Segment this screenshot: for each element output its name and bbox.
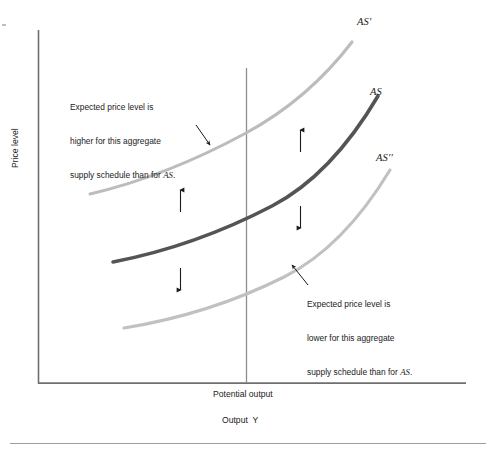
annotation-upper-line-1: Expected price level is (70, 102, 175, 113)
annotation-lower-italic-as: AS (400, 367, 410, 377)
annotation-upper-line-3: supply schedule than for AS. (70, 170, 175, 181)
diagram-canvas (0, 0, 496, 455)
annotation-lower-line-3-text: supply schedule than for (307, 367, 400, 377)
annotation-lower-line-1: Expected price level is (307, 299, 412, 310)
annotation-upper-line-2: higher for this aggregate (70, 136, 175, 147)
potential-output-label: Potential output (213, 389, 273, 399)
annotation-lower-line-2: lower for this aggregate (307, 333, 412, 344)
annotation-upper: Expected price level is higher for this … (70, 80, 175, 203)
annotation-upper-italic-as: AS (163, 170, 173, 180)
curve-label-as-double-prime: AS'' (376, 152, 393, 163)
x-axis-label: Output Y (222, 415, 258, 425)
annotation-lower: Expected price level is lower for this a… (307, 277, 412, 400)
aggregate-supply-diagram: Price level AS' AS AS'' Potential output… (0, 0, 496, 455)
annotation-lower-period: . (410, 367, 412, 377)
annotation-upper-period: . (173, 170, 175, 180)
y-axis-label: Price level (10, 58, 20, 168)
annotation-upper-pointer (196, 125, 210, 145)
annotation-lower-line-3: supply schedule than for AS. (307, 367, 412, 378)
annotation-upper-line-3-text: supply schedule than for (70, 170, 163, 180)
curve-label-as-prime: AS' (357, 16, 372, 27)
curve-label-as: AS (370, 86, 382, 97)
